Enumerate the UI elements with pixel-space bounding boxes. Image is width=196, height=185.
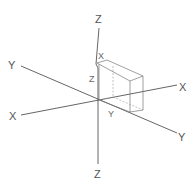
box-z-label: Z bbox=[89, 74, 95, 84]
axes-diagram: Z Z Y Y X X X Z Y bbox=[0, 0, 196, 185]
x-left-label: X bbox=[9, 110, 17, 122]
box-hidden-edge-bottom bbox=[113, 97, 143, 110]
box-edge-bottom-right bbox=[130, 110, 143, 112]
x-right-label: X bbox=[179, 81, 187, 93]
rectangular-box bbox=[97, 60, 143, 112]
box-y-label: Y bbox=[108, 109, 114, 119]
box-x-label: X bbox=[98, 51, 104, 61]
y-left-label: Y bbox=[8, 59, 16, 71]
box-edge-bottom-front bbox=[99, 100, 130, 112]
y-right-label: Y bbox=[178, 131, 186, 143]
box-top-face bbox=[97, 60, 143, 81]
z-bottom-label: Z bbox=[94, 168, 101, 180]
z-top-label: Z bbox=[95, 13, 102, 25]
